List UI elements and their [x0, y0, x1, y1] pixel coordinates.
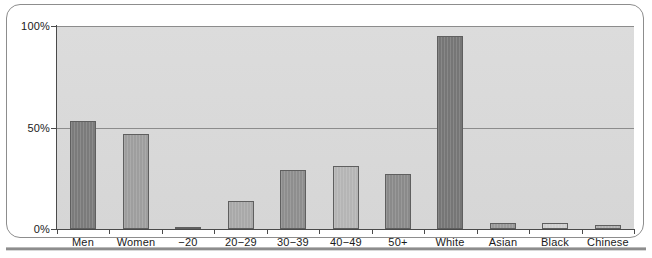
bar-texture: [281, 171, 305, 228]
bar-texture: [438, 37, 462, 228]
bar-texture: [491, 224, 515, 228]
bar-men: [70, 121, 96, 229]
y-tick-mark: [51, 229, 56, 230]
x-tick-mark: [477, 229, 478, 234]
x-tick-mark: [162, 229, 163, 234]
y-axis-line: [56, 25, 57, 230]
x-tick-mark: [319, 229, 320, 234]
bar-4049: [333, 166, 359, 229]
bar-texture: [386, 175, 410, 228]
bar-50+: [385, 174, 411, 229]
x-tick-mark: [529, 229, 530, 234]
x-axis-line: [56, 229, 635, 230]
x-tick-mark: [582, 229, 583, 234]
x-tick-mark: [57, 229, 58, 234]
plot-area: [57, 26, 634, 229]
bar-texture: [124, 135, 148, 228]
chart-screenshot: 0%50%100% MenWomen−2020−2930−3940−4950+W…: [0, 0, 652, 258]
bar-texture: [543, 224, 567, 228]
x-tick-mark: [109, 229, 110, 234]
bar-white: [437, 36, 463, 229]
bar-women: [123, 134, 149, 229]
x-tick-mark: [267, 229, 268, 234]
x-tick-mark: [634, 229, 635, 234]
bar-texture: [71, 122, 95, 228]
x-tick-mark: [372, 229, 373, 234]
gridline: [57, 128, 634, 129]
y-tick-label: 100%: [21, 20, 50, 32]
x-tick-mark: [214, 229, 215, 234]
footer-rule-shadow: [6, 250, 646, 251]
bar-3039: [280, 170, 306, 229]
y-tick-mark: [51, 26, 56, 27]
bar-texture: [229, 202, 253, 228]
y-tick-mark: [51, 128, 56, 129]
y-tick-label: 0%: [34, 223, 50, 235]
bar-texture: [596, 226, 620, 228]
x-tick-mark: [424, 229, 425, 234]
bar-2029: [228, 201, 254, 229]
y-tick-label: 50%: [27, 122, 50, 134]
bar-texture: [334, 167, 358, 228]
gridline: [57, 26, 634, 27]
